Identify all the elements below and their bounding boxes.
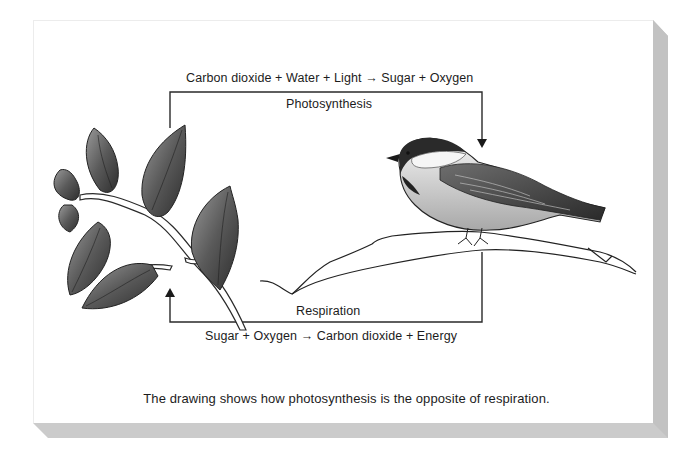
figure-caption: The drawing shows how photosynthesis is … bbox=[0, 391, 693, 406]
respiration-arrowhead-icon bbox=[165, 288, 175, 297]
respiration-equation: Sugar + Oxygen → Carbon dioxide + Energy bbox=[205, 329, 457, 343]
plant-illustration bbox=[54, 125, 246, 330]
bird-illustration bbox=[386, 138, 605, 246]
photosynthesis-arrowhead-icon bbox=[477, 139, 487, 148]
respiration-label: Respiration bbox=[296, 304, 360, 318]
photosynthesis-equation: Carbon dioxide + Water + Light → Sugar +… bbox=[186, 71, 473, 85]
photosynthesis-label: Photosynthesis bbox=[286, 97, 372, 111]
perch-branch bbox=[260, 231, 636, 294]
diagram-artwork bbox=[0, 0, 693, 456]
